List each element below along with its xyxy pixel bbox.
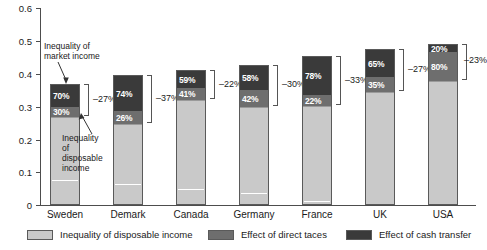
- bar-inner-line-sweden: [52, 180, 78, 181]
- category-label-canada: Canada: [156, 209, 226, 221]
- y-tick-label-0.4: 0.4: [2, 70, 32, 80]
- segment-label-cash-uk: 65%: [368, 59, 384, 68]
- segment-divider-france: [303, 106, 331, 107]
- bar-demark: 74% 26%: [113, 75, 143, 205]
- y-tick-mark-0.6: [36, 8, 40, 9]
- y-tick-label-0.3: 0.3: [2, 103, 32, 113]
- annotation-market-income-arrow: [44, 60, 84, 86]
- annotation-disposable-income-arrow: [60, 112, 96, 140]
- segment-direct-taxes-demark: 26%: [114, 111, 142, 124]
- y-tick-label-0.6: 0.6: [2, 4, 32, 14]
- category-label-usa: USA: [408, 209, 478, 221]
- category-label-germany: Germany: [219, 209, 289, 221]
- segment-label-cash-france: 78%: [305, 72, 321, 81]
- bracket-uk: [399, 49, 404, 91]
- category-label-france: France: [282, 209, 352, 221]
- y-tick-mark-0.2: [36, 140, 40, 141]
- segment-cash-transfer-sweden: 70%: [51, 85, 79, 107]
- annotation-market-income-text: Inequality of market income: [44, 41, 100, 61]
- segment-direct-taxes-france: 22%: [303, 95, 331, 106]
- segment-divider-uk: [366, 92, 394, 93]
- category-label-sweden: Sweden: [30, 209, 100, 221]
- bar-inner-line-demark: [115, 184, 141, 185]
- segment-divider-germany: [240, 107, 268, 108]
- segment-divider-canada: [177, 100, 205, 101]
- segment-label-cash-canada: 59%: [179, 75, 195, 84]
- bar-germany: 58% 42%: [239, 65, 269, 205]
- reduction-label-usa: –23%: [464, 56, 487, 65]
- legend-label-disposable-income: Inequality of disposable income: [60, 230, 193, 240]
- category-label-uk: UK: [345, 209, 415, 221]
- bracket-demark: [147, 75, 152, 123]
- segment-cash-transfer-canada: 59%: [177, 71, 205, 88]
- segment-label-cash-germany: 58%: [242, 74, 258, 83]
- y-tick-mark-0.4: [36, 74, 40, 75]
- segment-label-tax-germany: 42%: [242, 94, 258, 103]
- y-tick-label-0.5: 0.5: [2, 37, 32, 47]
- y-tick-mark-0.1: [36, 172, 40, 173]
- y-tick-label-0.2: 0.2: [2, 136, 32, 146]
- segment-label-tax-uk: 35%: [368, 80, 384, 89]
- bar-canada: 59% 41%: [176, 70, 206, 205]
- segment-cash-transfer-germany: 58%: [240, 66, 268, 90]
- y-tick-label-0.1: 0.1: [2, 168, 32, 178]
- y-axis-line: [40, 8, 41, 205]
- legend-swatch-light-gray: [27, 230, 53, 240]
- segment-cash-transfer-france: 78%: [303, 57, 331, 95]
- bar-inner-line-canada: [178, 189, 204, 190]
- y-tick-mark-0.3: [36, 107, 40, 108]
- segment-label-cash-demark: 74%: [116, 89, 132, 98]
- y-tick-mark-0.5: [36, 41, 40, 42]
- segment-label-tax-france: 22%: [305, 96, 321, 105]
- bar-france: 78% 22%: [302, 56, 332, 205]
- legend-label-direct-taxes: Effect of direct taces: [241, 230, 327, 240]
- legend-swatch-dark-gray: [346, 230, 372, 240]
- legend-item-direct-taxes: Effect of direct taces: [208, 228, 327, 242]
- segment-divider-usa: [429, 81, 457, 82]
- segment-label-cash-sweden: 70%: [53, 92, 69, 101]
- x-axis-line: [40, 205, 476, 206]
- legend-item-cash-transfer: Effect of cash transfer: [346, 228, 471, 242]
- segment-label-cash-usa: 20%: [431, 45, 447, 52]
- y-tick-mark-0: [36, 205, 40, 206]
- legend-swatch-mid-gray: [208, 230, 234, 240]
- y-tick-label-0: 0: [2, 201, 32, 211]
- segment-direct-taxes-germany: 42%: [240, 90, 268, 107]
- chart-legend: Inequality of disposable income Effect o…: [0, 228, 484, 244]
- bracket-germany: [273, 65, 278, 106]
- segment-direct-taxes-canada: 41%: [177, 88, 205, 100]
- category-label-demark: Demark: [93, 209, 163, 221]
- bar-usa: 20% 80%: [428, 44, 458, 205]
- segment-direct-taxes-uk: 35%: [366, 77, 394, 92]
- bar-inner-line-germany: [241, 193, 267, 194]
- bracket-france: [336, 56, 341, 105]
- legend-label-cash-transfer: Effect of cash transfer: [379, 230, 471, 240]
- bar-uk: 65% 35%: [365, 49, 395, 205]
- segment-cash-transfer-usa: 20%: [429, 45, 457, 52]
- segment-cash-transfer-demark: 74%: [114, 76, 142, 111]
- segment-label-tax-canada: 41%: [179, 90, 195, 99]
- segment-cash-transfer-uk: 65%: [366, 50, 394, 77]
- segment-direct-taxes-usa: 80%: [429, 52, 457, 81]
- segment-divider-demark: [114, 124, 142, 125]
- bracket-canada: [210, 70, 215, 99]
- legend-item-disposable-income: Inequality of disposable income: [27, 228, 193, 242]
- bar-inner-line-france: [304, 201, 330, 202]
- segment-label-tax-usa: 80%: [431, 62, 447, 71]
- segment-label-tax-demark: 26%: [116, 113, 132, 122]
